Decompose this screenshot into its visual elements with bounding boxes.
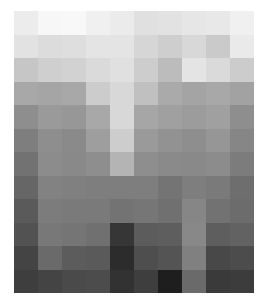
mosaic-cell — [14, 270, 38, 294]
mosaic-cell — [110, 58, 134, 82]
mosaic-cell — [86, 270, 110, 294]
mosaic-cell — [206, 11, 230, 35]
mosaic-cell — [38, 35, 62, 59]
mosaic-cell — [158, 35, 182, 59]
mosaic-cell — [230, 199, 254, 223]
mosaic-cell — [206, 152, 230, 176]
mosaic-cell — [230, 270, 254, 294]
mosaic-cell — [206, 270, 230, 294]
mosaic-cell — [86, 35, 110, 59]
grayscale-mosaic-image — [14, 11, 254, 293]
mosaic-cell — [110, 11, 134, 35]
mosaic-cell — [38, 223, 62, 247]
mosaic-cell — [86, 223, 110, 247]
mosaic-cell — [62, 270, 86, 294]
mosaic-cell — [38, 129, 62, 153]
mosaic-cell — [182, 82, 206, 106]
mosaic-cell — [134, 35, 158, 59]
mosaic-cell — [110, 246, 134, 270]
mosaic-cell — [134, 82, 158, 106]
mosaic-cell — [182, 105, 206, 129]
mosaic-cell — [230, 105, 254, 129]
mosaic-cell — [38, 152, 62, 176]
mosaic-cell — [206, 35, 230, 59]
mosaic-cell — [230, 58, 254, 82]
mosaic-cell — [134, 105, 158, 129]
mosaic-cell — [230, 176, 254, 200]
mosaic-cell — [206, 199, 230, 223]
mosaic-cell — [182, 35, 206, 59]
mosaic-cell — [110, 152, 134, 176]
mosaic-cell — [158, 129, 182, 153]
mosaic-cell — [158, 82, 182, 106]
mosaic-cell — [182, 176, 206, 200]
mosaic-cell — [134, 152, 158, 176]
mosaic-cell — [134, 129, 158, 153]
mosaic-cell — [14, 152, 38, 176]
mosaic-cell — [158, 152, 182, 176]
mosaic-cell — [110, 129, 134, 153]
mosaic-cell — [158, 58, 182, 82]
mosaic-cell — [158, 246, 182, 270]
mosaic-cell — [62, 129, 86, 153]
mosaic-cell — [86, 129, 110, 153]
mosaic-cell — [182, 223, 206, 247]
mosaic-cell — [14, 176, 38, 200]
mosaic-cell — [14, 105, 38, 129]
mosaic-cell — [206, 58, 230, 82]
mosaic-cell — [134, 11, 158, 35]
mosaic-cell — [14, 129, 38, 153]
mosaic-cell — [134, 270, 158, 294]
mosaic-cell — [158, 176, 182, 200]
mosaic-cell — [110, 35, 134, 59]
mosaic-cell — [62, 199, 86, 223]
mosaic-cell — [230, 246, 254, 270]
mosaic-cell — [134, 176, 158, 200]
mosaic-cell — [206, 223, 230, 247]
mosaic-cell — [86, 199, 110, 223]
mosaic-cell — [134, 199, 158, 223]
mosaic-cell — [14, 199, 38, 223]
mosaic-cell — [206, 176, 230, 200]
mosaic-cell — [110, 223, 134, 247]
mosaic-cell — [62, 176, 86, 200]
mosaic-cell — [14, 58, 38, 82]
mosaic-cell — [230, 152, 254, 176]
mosaic-cell — [86, 82, 110, 106]
mosaic-cell — [86, 246, 110, 270]
mosaic-cell — [230, 82, 254, 106]
mosaic-cell — [62, 152, 86, 176]
mosaic-cell — [182, 58, 206, 82]
mosaic-cell — [182, 199, 206, 223]
mosaic-cell — [62, 58, 86, 82]
mosaic-cell — [110, 105, 134, 129]
mosaic-cell — [14, 223, 38, 247]
mosaic-cell — [14, 246, 38, 270]
mosaic-cell — [38, 82, 62, 106]
mosaic-cell — [206, 82, 230, 106]
mosaic-cell — [62, 246, 86, 270]
mosaic-cell — [134, 223, 158, 247]
mosaic-cell — [14, 11, 38, 35]
mosaic-cell — [110, 270, 134, 294]
mosaic-cell — [206, 246, 230, 270]
mosaic-cell — [110, 199, 134, 223]
mosaic-cell — [86, 152, 110, 176]
mosaic-cell — [206, 129, 230, 153]
mosaic-cell — [86, 176, 110, 200]
mosaic-cell — [158, 270, 182, 294]
mosaic-cell — [230, 11, 254, 35]
mosaic-cell — [182, 246, 206, 270]
mosaic-cell — [14, 35, 38, 59]
mosaic-cell — [182, 270, 206, 294]
mosaic-cell — [110, 176, 134, 200]
mosaic-cell — [62, 105, 86, 129]
mosaic-cell — [62, 223, 86, 247]
mosaic-cell — [86, 105, 110, 129]
mosaic-cell — [134, 58, 158, 82]
mosaic-cell — [230, 129, 254, 153]
mosaic-cell — [62, 82, 86, 106]
mosaic-cell — [182, 152, 206, 176]
mosaic-cell — [86, 58, 110, 82]
mosaic-cell — [38, 58, 62, 82]
